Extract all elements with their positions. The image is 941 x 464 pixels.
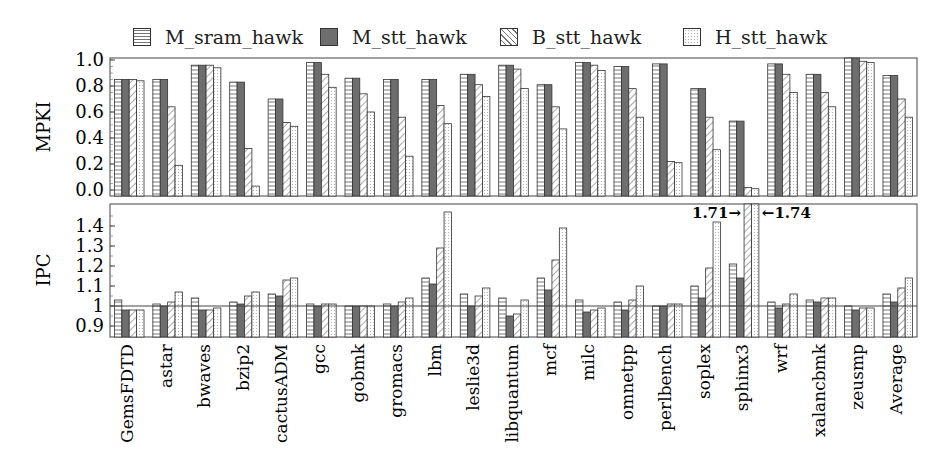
x-tick-label: zeusmp — [847, 344, 867, 410]
bar — [698, 89, 705, 196]
bar — [537, 85, 544, 196]
bar — [713, 222, 720, 337]
bar — [290, 278, 297, 337]
bar — [859, 308, 866, 337]
bar — [199, 65, 206, 196]
bar — [352, 78, 359, 196]
bar — [137, 81, 144, 196]
bar — [867, 63, 874, 196]
bar — [367, 306, 374, 337]
bar — [367, 112, 374, 196]
bar — [506, 65, 513, 196]
bar — [482, 96, 489, 196]
x-tick-label: bwaves — [194, 344, 214, 408]
x-tick-label: xalancbmk — [809, 343, 829, 437]
bar — [783, 74, 790, 196]
bar — [391, 80, 398, 197]
bar — [576, 63, 583, 196]
bar — [621, 310, 628, 337]
x-axis-labels: GemsFDTDastarbwavesbzip2cactusADMgccgobm… — [117, 342, 906, 443]
bar — [590, 65, 597, 196]
bar — [514, 69, 521, 196]
bar — [122, 80, 129, 197]
bar — [268, 99, 275, 196]
bar — [422, 80, 429, 197]
bar — [675, 304, 682, 337]
bar — [821, 298, 828, 337]
bar — [552, 107, 559, 196]
bar — [552, 260, 559, 337]
y-tick-label: 0.0 — [75, 179, 104, 200]
bar — [506, 316, 513, 337]
bar — [307, 63, 314, 196]
bar — [845, 58, 852, 196]
bar — [790, 93, 797, 197]
bar — [314, 306, 321, 337]
y-tick-label: 1.4 — [75, 215, 104, 236]
bar — [345, 306, 352, 337]
bar — [583, 312, 590, 337]
bar — [768, 302, 775, 337]
bar — [852, 58, 859, 196]
bar — [744, 187, 751, 196]
x-tick-label: soplex — [694, 344, 714, 399]
bar — [191, 65, 198, 196]
x-tick-label: mcf — [540, 342, 560, 376]
bar — [652, 64, 659, 196]
y-tick-label: 1.2 — [75, 255, 104, 276]
x-tick-label: libquantum — [502, 344, 522, 443]
bar — [698, 298, 705, 337]
bar — [652, 306, 659, 337]
bar — [521, 89, 528, 196]
y-tick-label: 0.6 — [75, 101, 104, 122]
bar — [429, 80, 436, 197]
bar — [406, 156, 413, 196]
bar — [153, 80, 160, 197]
bar — [751, 204, 758, 337]
bar — [482, 288, 489, 337]
bar — [475, 296, 482, 337]
bar — [590, 310, 597, 337]
bar — [559, 228, 566, 337]
bar — [468, 74, 475, 196]
y-tick-label: 0.2 — [75, 153, 104, 174]
bar — [160, 80, 167, 197]
bar — [329, 87, 336, 196]
x-tick-label: gromacs — [386, 344, 406, 418]
x-tick-label: GemsFDTD — [117, 344, 137, 443]
bar — [168, 302, 175, 337]
bar — [329, 304, 336, 337]
bar — [383, 80, 390, 197]
bar — [845, 306, 852, 337]
y-tick-label: 1.3 — [75, 235, 104, 256]
bar — [153, 304, 160, 337]
bar — [460, 74, 467, 196]
bar — [245, 148, 252, 196]
bar — [660, 306, 667, 337]
bar — [821, 93, 828, 197]
bar — [583, 63, 590, 196]
bar — [729, 264, 736, 337]
x-tick-label: gcc — [309, 344, 329, 374]
bar — [675, 163, 682, 196]
x-tick-label: lbm — [425, 344, 445, 376]
bar — [636, 286, 643, 337]
bar — [314, 63, 321, 196]
bar — [129, 80, 136, 197]
bar — [883, 76, 890, 196]
bar — [230, 302, 237, 337]
bar — [890, 302, 897, 337]
bar — [867, 308, 874, 337]
bar — [828, 107, 835, 196]
y-axis-label: MPKI — [33, 101, 54, 152]
bar — [706, 117, 713, 196]
bar — [537, 278, 544, 337]
bar — [429, 284, 436, 337]
bar — [898, 288, 905, 337]
bar — [237, 304, 244, 337]
bar — [129, 310, 136, 337]
y-axis-label: IPC — [33, 254, 54, 287]
bar — [751, 189, 758, 196]
bar — [168, 107, 175, 196]
bar — [114, 80, 121, 197]
